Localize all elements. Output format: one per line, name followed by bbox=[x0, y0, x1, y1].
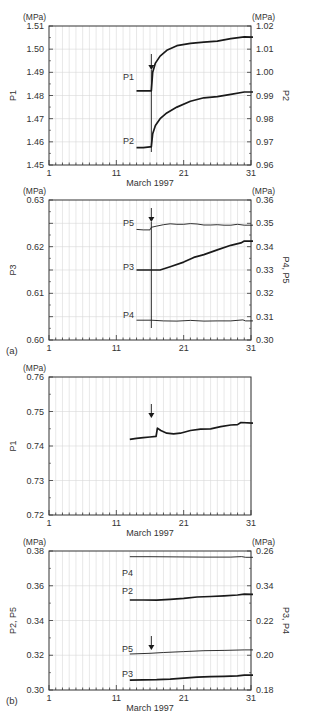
y-tick-label-right: 0.20 bbox=[256, 650, 274, 660]
series-line-p3 bbox=[130, 675, 253, 680]
series-label-p5: P5 bbox=[122, 644, 133, 654]
event-arrow-icon bbox=[148, 217, 154, 222]
x-tick-label: 11 bbox=[112, 343, 121, 353]
panel-tag: (a) bbox=[6, 345, 18, 356]
series-label-p4: P4 bbox=[122, 568, 133, 578]
x-tick-label: 1 bbox=[46, 518, 51, 528]
series-label-p1: P1 bbox=[123, 72, 134, 82]
y-tick-label-right: 0.35 bbox=[256, 218, 274, 228]
x-tick-label: 21 bbox=[179, 693, 189, 703]
x-axis-title: March 1997 bbox=[126, 178, 174, 188]
y-tick-label-right: 0.18 bbox=[256, 685, 274, 695]
series-label-p4: P4 bbox=[123, 310, 134, 320]
y-axis-label-right: P4, P5 bbox=[281, 256, 291, 283]
x-tick-label: 31 bbox=[246, 343, 256, 353]
series-line-p3 bbox=[137, 241, 254, 270]
y-tick-label-left: 0.34 bbox=[26, 616, 44, 626]
y-tick-label-left: 0.72 bbox=[26, 510, 44, 520]
y-tick-label-left: 0.38 bbox=[26, 546, 44, 556]
y-unit-right: (MPa) bbox=[252, 186, 275, 196]
y-tick-label-right: 0.34 bbox=[256, 242, 274, 252]
y-tick-label-left: 1.45 bbox=[26, 160, 44, 170]
x-tick-label: 1 bbox=[46, 343, 51, 353]
y-tick-label-left: 1.51 bbox=[26, 21, 44, 31]
x-tick-label: 21 bbox=[179, 343, 189, 353]
y-tick-label-left: 0.73 bbox=[26, 476, 44, 486]
y-tick-label-left: 0.63 bbox=[26, 195, 44, 205]
series-line-p4 bbox=[137, 320, 254, 321]
series-line-p4 bbox=[130, 557, 253, 558]
x-tick-label: 31 bbox=[246, 518, 256, 528]
x-tick-label: 11 bbox=[112, 693, 121, 703]
y-axis-label-left: P2, P5 bbox=[8, 607, 18, 634]
y-tick-label-right: 0.31 bbox=[256, 312, 274, 322]
y-tick-label-right: 0.26 bbox=[256, 546, 274, 556]
series-line-p5 bbox=[130, 650, 253, 654]
y-tick-label-left: 0.36 bbox=[26, 581, 44, 591]
y-tick-label-left: 0.62 bbox=[26, 242, 44, 252]
y-tick-label-left: 1.47 bbox=[26, 114, 44, 124]
y-tick-label-left: 1.50 bbox=[26, 44, 44, 54]
y-tick-label-left: 1.46 bbox=[26, 137, 44, 147]
y-tick-label-right: 0.22 bbox=[256, 616, 274, 626]
y-unit-left: (MPa) bbox=[23, 186, 46, 196]
y-tick-label-right: 1.02 bbox=[256, 21, 274, 31]
y-axis-label-right: P3, P4 bbox=[281, 607, 291, 634]
x-axis-title: March 1997 bbox=[126, 703, 174, 713]
series-line-p5 bbox=[137, 224, 254, 230]
x-tick-label: 31 bbox=[246, 168, 256, 178]
y-axis-label-left: P1 bbox=[8, 440, 18, 451]
y-axis-label-left: P1 bbox=[8, 90, 18, 101]
series-line-p2 bbox=[137, 92, 254, 148]
y-tick-label-right: 0.30 bbox=[256, 335, 274, 345]
x-tick-label: 31 bbox=[246, 693, 256, 703]
y-tick-label-right: 0.97 bbox=[256, 137, 274, 147]
pressure-time-series-figure: 11121311.451.461.471.481.491.501.51(MPa)… bbox=[0, 0, 310, 726]
panel-tag: (b) bbox=[6, 695, 18, 706]
y-tick-label-left: 0.32 bbox=[26, 650, 44, 660]
y-tick-label-right: 0.99 bbox=[256, 91, 274, 101]
x-tick-label: 1 bbox=[46, 168, 51, 178]
series-line-p1 bbox=[137, 37, 254, 91]
y-unit-right: (MPa) bbox=[252, 12, 275, 22]
y-tick-label-left: 0.74 bbox=[26, 441, 44, 451]
event-arrow-icon bbox=[148, 413, 154, 418]
y-tick-label-right: 1.01 bbox=[256, 44, 274, 54]
y-axis-label-right: P2 bbox=[281, 90, 291, 101]
y-axis-label-left: P3 bbox=[8, 264, 18, 275]
y-tick-label-right: 1.00 bbox=[256, 67, 274, 77]
series-line-p1 bbox=[130, 423, 253, 440]
series-label-p5: P5 bbox=[123, 218, 134, 228]
y-unit-left: (MPa) bbox=[23, 363, 46, 373]
series-line-p2 bbox=[130, 594, 253, 600]
x-tick-label: 1 bbox=[46, 693, 51, 703]
y-unit-left: (MPa) bbox=[23, 12, 46, 22]
y-tick-label-left: 0.61 bbox=[26, 288, 44, 298]
y-tick-label-right: 0.32 bbox=[256, 288, 274, 298]
y-tick-label-left: 1.49 bbox=[26, 67, 44, 77]
y-tick-label-left: 1.48 bbox=[26, 91, 44, 101]
event-arrow-icon bbox=[148, 645, 154, 650]
series-label-p3: P3 bbox=[122, 669, 133, 679]
y-tick-label-left: 0.75 bbox=[26, 407, 44, 417]
x-tick-label: 11 bbox=[112, 168, 121, 178]
x-tick-label: 11 bbox=[112, 518, 121, 528]
y-unit-right: (MPa) bbox=[252, 537, 275, 547]
x-axis-title: March 1997 bbox=[126, 528, 174, 538]
series-label-p3: P3 bbox=[123, 262, 134, 272]
y-tick-label-right: 0.34 bbox=[256, 581, 274, 591]
figure-canvas: 11121311.451.461.471.481.491.501.51(MPa)… bbox=[0, 0, 310, 726]
y-tick-label-left: 0.76 bbox=[26, 372, 44, 382]
series-label-p2: P2 bbox=[123, 136, 134, 146]
y-tick-label-right: 0.98 bbox=[256, 114, 274, 124]
y-tick-label-right: 0.33 bbox=[256, 265, 274, 275]
series-label-p2: P2 bbox=[122, 586, 133, 596]
y-tick-label-right: 0.36 bbox=[256, 195, 274, 205]
x-tick-label: 21 bbox=[179, 168, 189, 178]
x-tick-label: 21 bbox=[179, 518, 189, 528]
y-unit-left: (MPa) bbox=[23, 537, 46, 547]
y-tick-label-left: 0.30 bbox=[26, 685, 44, 695]
y-tick-label-left: 0.60 bbox=[26, 335, 44, 345]
y-tick-label-right: 0.96 bbox=[256, 160, 274, 170]
